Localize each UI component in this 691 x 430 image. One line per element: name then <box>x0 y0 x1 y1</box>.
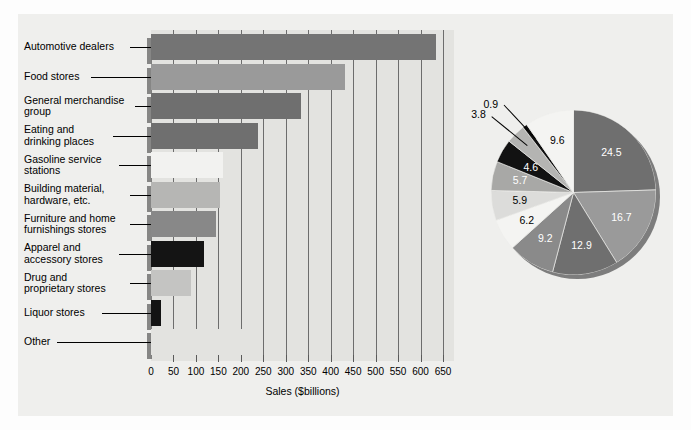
bar-row[interactable] <box>151 123 258 149</box>
leader-line <box>57 342 151 343</box>
gridline-450 <box>353 30 354 361</box>
bar[interactable] <box>151 300 161 326</box>
pie-data-label-outside: 3.8 <box>471 108 486 120</box>
bar[interactable] <box>151 270 191 296</box>
figure-canvas: Automotive dealersFood storesGeneral mer… <box>0 0 691 430</box>
leader-line <box>130 224 151 225</box>
leader-line <box>119 165 151 166</box>
tick-400 <box>331 355 332 362</box>
tick-550 <box>398 355 399 362</box>
bar-row[interactable] <box>151 93 301 119</box>
bar[interactable] <box>151 182 220 208</box>
x-axis-title: Sales ($billions) <box>151 385 454 397</box>
bar[interactable] <box>151 123 258 149</box>
tick-650 <box>443 355 444 362</box>
bar[interactable] <box>151 64 345 90</box>
tick-350 <box>308 355 309 362</box>
pie-data-label: 4.6 <box>516 161 546 173</box>
leader-line <box>113 136 151 137</box>
leader-line <box>130 47 151 48</box>
leader-line <box>102 313 151 314</box>
bar-row[interactable] <box>151 152 223 178</box>
tick-150 <box>218 355 219 362</box>
category-label: Drug and proprietary stores <box>24 272 142 295</box>
bar[interactable] <box>151 93 301 119</box>
tick-200 <box>241 355 242 362</box>
leader-line <box>91 77 151 78</box>
leader-line <box>135 106 151 107</box>
chart-panel: Automotive dealersFood storesGeneral mer… <box>18 14 673 416</box>
gridline-650 <box>443 30 444 361</box>
bar[interactable] <box>151 211 216 237</box>
pie-data-label: 16.7 <box>606 211 636 223</box>
bar-row[interactable] <box>151 64 345 90</box>
tick-500 <box>376 355 377 362</box>
tick-450 <box>353 355 354 362</box>
leader-line <box>119 254 151 255</box>
bar-row[interactable] <box>151 34 436 60</box>
x-tick-label: 650 <box>428 366 458 377</box>
bar[interactable] <box>151 241 204 267</box>
category-label: Building material, hardware, etc. <box>24 183 142 206</box>
leader-line <box>130 283 151 284</box>
pie-data-label: 5.9 <box>505 194 535 206</box>
bar-row[interactable] <box>151 241 204 267</box>
gridline-600 <box>421 30 422 361</box>
pie-data-label: 9.6 <box>542 134 572 146</box>
category-label: Automotive dealers <box>24 41 142 53</box>
pie-data-label: 12.9 <box>567 239 597 251</box>
bar-row[interactable] <box>151 182 220 208</box>
bar-row[interactable] <box>151 211 216 237</box>
pie-data-label: 6.2 <box>512 214 542 226</box>
pie-chart: 24.516.712.99.26.25.95.74.63.80.99.6 <box>473 14 673 416</box>
pie-data-label: 5.7 <box>505 174 535 186</box>
pie-data-label: 24.5 <box>596 146 626 158</box>
leader-line <box>130 195 151 196</box>
bar-row[interactable] <box>151 329 262 355</box>
bar[interactable] <box>151 152 223 178</box>
bar[interactable] <box>151 329 262 355</box>
bar-row[interactable] <box>151 300 161 326</box>
gridline-500 <box>376 30 377 361</box>
tick-50 <box>173 355 174 362</box>
category-label: General merchandise group <box>24 95 142 118</box>
tick-100 <box>196 355 197 362</box>
pie-data-label: 9.2 <box>530 232 560 244</box>
pie-data-label-outside: 0.9 <box>483 98 498 110</box>
gridline-550 <box>398 30 399 361</box>
tick-250 <box>263 355 264 362</box>
bar[interactable] <box>151 34 436 60</box>
bar-row[interactable] <box>151 270 191 296</box>
bar-chart: Automotive dealersFood storesGeneral mer… <box>18 14 488 416</box>
category-label: Furniture and home furnishings stores <box>24 213 142 236</box>
tick-300 <box>286 355 287 362</box>
tick-600 <box>421 355 422 362</box>
